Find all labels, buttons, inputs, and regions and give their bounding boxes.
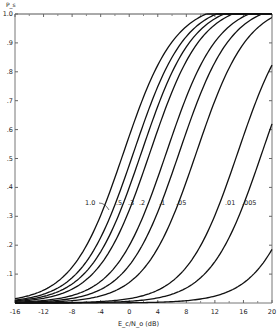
x-tick-label: 16: [239, 308, 247, 316]
y-tick-label: .8: [7, 68, 13, 76]
x-axis-label: E_c/N_o (dB): [118, 320, 159, 328]
curve-label: .05: [176, 199, 186, 207]
y-tick-label: .3: [7, 212, 13, 220]
x-tick-label: -8: [69, 308, 75, 316]
y-tick-label: .5: [7, 155, 13, 163]
x-tick-label: 4: [156, 308, 160, 316]
x-tick-label: -16: [10, 308, 21, 316]
x-tick-label: -4: [97, 308, 103, 316]
curve-.01: [15, 65, 272, 303]
x-tick-label: 0: [127, 308, 131, 316]
y-tick-label: .1: [7, 270, 13, 278]
y-tick-label: .2: [7, 241, 13, 249]
curve-1.0: [15, 14, 272, 299]
y-tick-label: .6: [7, 126, 13, 134]
x-tick-label: -12: [38, 308, 49, 316]
curve-label: .5: [116, 199, 122, 207]
curve-.1: [15, 14, 272, 302]
curve-.05: [15, 14, 272, 303]
curve-.3: [15, 14, 272, 301]
curve-label: .3: [128, 199, 134, 207]
curve-unlabeled: [15, 17, 272, 302]
curve-label: .005: [242, 199, 256, 207]
y-tick-label: 1.0: [3, 10, 13, 18]
x-tick-label: 12: [211, 308, 219, 316]
curve-label: .1: [159, 199, 165, 207]
x-tick-label: 20: [268, 308, 276, 316]
curve-label: .2: [139, 199, 145, 207]
curves: [15, 14, 272, 303]
curve-label: .01: [225, 199, 235, 207]
y-tick-label: .4: [7, 183, 13, 191]
curve-labels: 1.0.5.3.2.1.05.01.005: [85, 199, 256, 210]
curve-label: 1.0: [85, 199, 95, 207]
chart: -16-12-8-4048121620.1.2.3.4.5.6.7.8.91.0…: [0, 0, 278, 332]
x-tick-label: 8: [184, 308, 188, 316]
y-tick-label: .7: [7, 97, 13, 105]
y-tick-label: .9: [7, 39, 13, 47]
y-axis-label: P_s: [6, 1, 16, 9]
curve-.005: [15, 124, 272, 303]
curve-.2: [15, 14, 272, 301]
curve-.5: [15, 14, 272, 300]
